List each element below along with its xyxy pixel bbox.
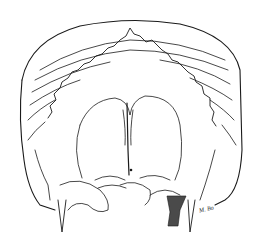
skull-illustration — [0, 0, 258, 250]
right-process — [188, 200, 195, 232]
skull-outline — [22, 20, 242, 205]
skull-drawing — [0, 0, 258, 250]
shadow-region — [167, 196, 186, 226]
left-process — [58, 200, 66, 232]
suture-line — [48, 28, 216, 126]
